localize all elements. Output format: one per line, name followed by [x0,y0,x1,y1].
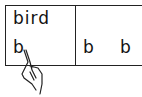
word-label: bird [13,8,50,28]
pointing-hand-icon [20,48,50,97]
choice-letter-1[interactable]: b [83,37,94,57]
card-divider [75,5,76,66]
choice-letter-2[interactable]: b [120,37,131,57]
